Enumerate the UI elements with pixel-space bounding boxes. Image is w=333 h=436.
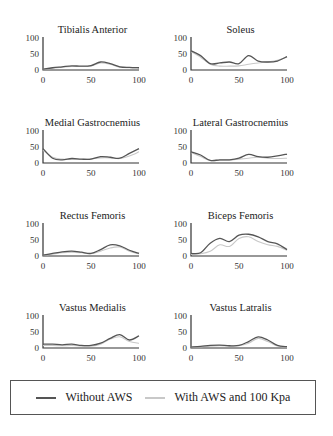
panel-biceps-femoris: Biceps Femoris100500050100 <box>148 200 333 293</box>
y-tick-label: 50 <box>178 49 188 59</box>
panel-soleus: Soleus100500050100 <box>148 14 333 107</box>
y-tick-label: 100 <box>174 311 188 321</box>
x-tick-label: 0 <box>189 75 194 85</box>
y-tick-label: 0 <box>183 158 188 168</box>
series-line-without-aws <box>191 234 287 254</box>
y-tick-label: 50 <box>178 142 188 152</box>
y-tick-label: 100 <box>26 33 40 43</box>
y-tick-label: 0 <box>35 343 40 353</box>
x-tick-label: 0 <box>41 168 46 178</box>
legend-swatch-light-line <box>145 397 165 399</box>
series-line-without-aws <box>43 335 139 346</box>
x-tick-label: 100 <box>132 168 146 178</box>
plot-area: 100500050100 <box>148 200 333 293</box>
series-line-with-aws <box>191 237 287 255</box>
x-tick-label: 100 <box>280 168 294 178</box>
x-tick-label: 50 <box>235 75 245 85</box>
y-tick-label: 50 <box>178 327 188 337</box>
y-tick-label: 100 <box>174 126 188 136</box>
panel-lateral-gastrocnemius: Lateral Gastrocnemius100500050100 <box>148 107 333 200</box>
y-tick-label: 100 <box>26 311 40 321</box>
x-tick-label: 50 <box>235 353 245 363</box>
series-line-with-aws <box>43 150 139 159</box>
x-tick-label: 0 <box>189 168 194 178</box>
x-tick-label: 50 <box>235 261 245 271</box>
x-tick-label: 100 <box>280 353 294 363</box>
legend-label: With AWS and 100 Kpa <box>175 390 291 405</box>
panel-vastus-latralis: Vastus Latralis100500050100 <box>148 292 333 385</box>
axes <box>191 37 287 70</box>
x-tick-label: 100 <box>132 75 146 85</box>
series-line-without-aws <box>191 337 287 347</box>
plot-area: 100500050100 <box>148 292 333 385</box>
y-tick-label: 100 <box>174 219 188 229</box>
x-tick-label: 0 <box>41 75 46 85</box>
x-tick-label: 50 <box>87 168 97 178</box>
y-tick-label: 0 <box>183 65 188 75</box>
y-tick-label: 100 <box>26 126 40 136</box>
legend-item-without-aws: Without AWS <box>36 390 133 405</box>
legend-swatch-dark-line <box>36 397 56 399</box>
y-tick-label: 0 <box>35 251 40 261</box>
legend: Without AWS With AWS and 100 Kpa <box>10 380 316 415</box>
x-tick-label: 0 <box>189 261 194 271</box>
y-tick-label: 0 <box>183 251 188 261</box>
y-tick-label: 0 <box>183 343 188 353</box>
x-tick-label: 50 <box>87 75 97 85</box>
axes <box>43 315 139 348</box>
x-tick-label: 50 <box>235 168 245 178</box>
y-tick-label: 0 <box>35 65 40 75</box>
series-line-without-aws <box>191 51 287 64</box>
y-tick-label: 0 <box>35 158 40 168</box>
x-tick-label: 100 <box>280 261 294 271</box>
x-tick-label: 50 <box>87 353 97 363</box>
x-tick-label: 0 <box>41 261 46 271</box>
x-tick-label: 50 <box>87 261 97 271</box>
plot-area: 100500050100 <box>148 14 333 107</box>
y-tick-label: 100 <box>26 219 40 229</box>
axes <box>43 223 139 256</box>
x-tick-label: 0 <box>41 353 46 363</box>
y-tick-label: 50 <box>30 235 40 245</box>
y-tick-label: 50 <box>30 142 40 152</box>
x-tick-label: 0 <box>189 353 194 363</box>
x-tick-label: 100 <box>280 75 294 85</box>
legend-label: Without AWS <box>66 390 133 405</box>
y-tick-label: 50 <box>178 235 188 245</box>
y-tick-label: 100 <box>174 33 188 43</box>
y-tick-label: 50 <box>30 49 40 59</box>
plot-area: 100500050100 <box>148 107 333 200</box>
x-tick-label: 100 <box>132 353 146 363</box>
legend-item-with-aws: With AWS and 100 Kpa <box>145 390 291 405</box>
axes <box>191 223 287 256</box>
x-tick-label: 100 <box>132 261 146 271</box>
y-tick-label: 50 <box>30 327 40 337</box>
